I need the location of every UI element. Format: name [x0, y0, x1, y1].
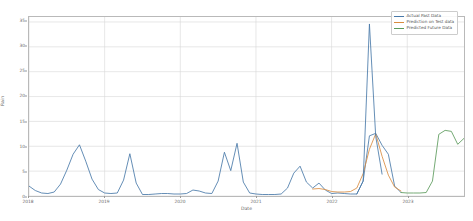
legend-item: Predicted Future Data	[394, 26, 454, 32]
x-tick-mark	[104, 196, 105, 198]
y-tick-mark	[25, 121, 27, 122]
y-axis-ticks: 05101520253035	[0, 16, 25, 197]
x-tick-mark	[180, 196, 181, 198]
y-tick-mark	[25, 71, 27, 72]
series-line-1	[313, 134, 401, 192]
legend-swatch-icon	[394, 16, 404, 17]
y-tick-mark	[25, 197, 27, 198]
series-line-2	[401, 130, 464, 193]
series-svg	[29, 17, 464, 196]
y-tick-mark	[25, 96, 27, 97]
x-tick-label: 2022	[326, 200, 337, 204]
x-tick-label: 2018	[22, 200, 33, 204]
y-tick-mark	[25, 46, 27, 47]
x-axis-label: Date	[28, 207, 465, 212]
y-tick-mark	[25, 21, 27, 22]
legend-label: Predicted Future Data	[407, 26, 453, 30]
x-tick-label: 2020	[174, 200, 185, 204]
x-tick-mark	[408, 196, 409, 198]
x-tick-mark	[332, 196, 333, 198]
y-tick-mark	[25, 171, 27, 172]
legend-swatch-icon	[394, 28, 404, 29]
x-tick-mark	[256, 196, 257, 198]
chart-legend: Actual Past DataPrediction on Test dataP…	[391, 11, 458, 35]
x-tick-label: 2019	[98, 200, 109, 204]
plot-area	[28, 16, 465, 197]
legend-label: Actual Past Data	[407, 14, 442, 18]
series-line-3	[357, 24, 382, 194]
y-tick-mark	[25, 146, 27, 147]
legend-swatch-icon	[394, 22, 404, 23]
legend-label: Prediction on Test data	[407, 20, 455, 24]
x-tick-label: 2021	[250, 200, 261, 204]
rainfall-forecast-chart: Rain 05101520253035 20182019202020212022…	[0, 0, 473, 221]
series-line-0	[29, 133, 401, 194]
x-tick-label: 2023	[402, 200, 413, 204]
x-tick-mark	[28, 196, 29, 198]
